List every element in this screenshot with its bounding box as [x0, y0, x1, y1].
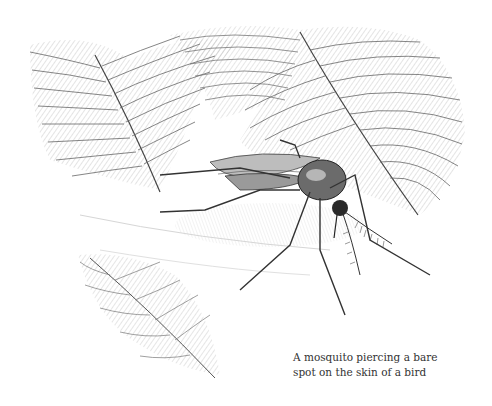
caption-line-2: spot on the skin of a bird [293, 365, 483, 380]
feather-bottom [78, 254, 220, 378]
caption-line-1: A mosquito piercing a bare [293, 350, 483, 365]
figure-caption: A mosquito piercing a bare spot on the s… [293, 350, 483, 380]
mosquito-illustration [0, 0, 492, 406]
